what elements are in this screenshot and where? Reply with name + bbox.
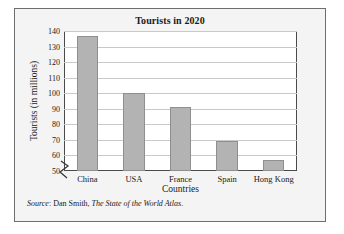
source-work-title: The State of the World Atlas — [92, 199, 182, 208]
y-tick-label: 80 — [52, 120, 60, 129]
y-axis-title: Tourists (in millions) — [29, 31, 42, 171]
y-tick-label: 110 — [48, 73, 60, 82]
source-author: Dan Smith, — [53, 199, 91, 208]
y-tick-label: 130 — [48, 42, 60, 51]
gridline — [64, 47, 297, 48]
x-tick-label: Spain — [217, 174, 236, 184]
gridline — [64, 31, 297, 32]
y-tick-label: 70 — [52, 135, 60, 144]
source-period: . — [181, 199, 183, 208]
gridline — [64, 93, 297, 94]
gridline — [64, 78, 297, 79]
source-label: Source — [27, 199, 49, 208]
bar-china — [77, 36, 98, 171]
y-tick-label: 140 — [48, 27, 60, 36]
y-tick-label: 90 — [52, 104, 60, 113]
gridline — [64, 62, 297, 63]
source-note: Source: Dan Smith, The State of the Worl… — [27, 199, 183, 208]
bar-france — [170, 107, 191, 171]
x-axis-title: Countries — [64, 184, 297, 194]
x-tick-label: France — [169, 174, 192, 184]
x-tick-label: Hong Kong — [254, 174, 294, 184]
y-tick-label: 100 — [48, 89, 60, 98]
bar-spain — [216, 141, 237, 171]
plot-wrapper: 5060708090100110120130140 ChinaUSAFrance… — [64, 31, 297, 171]
bar-hong-kong — [263, 160, 284, 171]
x-tick-label: USA — [125, 174, 142, 184]
y-tick-label: 50 — [52, 167, 60, 176]
y-tick-label: 60 — [52, 151, 60, 160]
bar-usa — [123, 93, 144, 171]
y-tick-label: 120 — [48, 58, 60, 67]
x-tick-label: China — [77, 174, 97, 184]
chart-title: Tourists in 2020 — [15, 15, 325, 26]
figure-panel: Tourists in 2020 50607080901001101201301… — [14, 8, 326, 222]
